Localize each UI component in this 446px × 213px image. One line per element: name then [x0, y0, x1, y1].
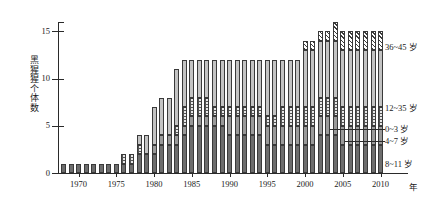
bar-segment — [348, 31, 353, 50]
bar-segment — [174, 135, 179, 144]
bar-segment — [333, 41, 338, 98]
bar-2010 — [378, 31, 383, 173]
bar-1991 — [235, 60, 240, 173]
bar-segment — [371, 107, 376, 126]
bar-segment — [325, 135, 330, 173]
bar-segment — [310, 50, 315, 107]
bar-segment — [204, 60, 209, 98]
bar-2007 — [355, 31, 360, 173]
bar-segment — [318, 98, 323, 117]
x-tick-mark — [343, 173, 344, 177]
bar-segment — [340, 50, 345, 107]
bar-2002 — [318, 31, 323, 173]
bar-segment — [167, 98, 172, 136]
bar-segment — [340, 107, 345, 126]
bar-1985 — [189, 60, 194, 173]
bar-segment — [129, 164, 134, 173]
bar-segment — [295, 126, 300, 145]
bar-segment — [121, 164, 126, 173]
bar-segment — [288, 126, 293, 145]
y-tick-label: 15 — [42, 27, 51, 36]
bar-2000 — [303, 41, 308, 173]
bar-segment — [69, 164, 74, 173]
bar-segment — [303, 41, 308, 50]
leader-line-4-7 — [345, 141, 385, 142]
bar-segment — [227, 107, 232, 116]
bar-segment — [288, 107, 293, 126]
bar-1977 — [129, 154, 134, 173]
bar-segment — [288, 145, 293, 173]
bar-segment — [333, 22, 338, 41]
bar-1979 — [144, 135, 149, 173]
y-tick-label: 10 — [42, 74, 51, 83]
x-tick-label: 1990 — [216, 180, 244, 189]
bar-segment — [212, 107, 217, 116]
bar-segment — [174, 126, 179, 135]
bar-segment — [204, 116, 209, 125]
bar-segment — [340, 31, 345, 50]
bar-segment — [220, 126, 225, 173]
bar-segment — [167, 135, 172, 144]
x-tick-label: 1980 — [140, 180, 168, 189]
bar-segment — [303, 107, 308, 126]
bar-segment — [371, 145, 376, 173]
bar-segment — [182, 60, 187, 107]
bar-segment — [272, 126, 277, 145]
bar-segment — [99, 164, 104, 173]
bar-segment — [378, 31, 383, 50]
bar-segment — [257, 116, 262, 135]
bar-segment — [363, 107, 368, 126]
bar-segment — [310, 41, 315, 50]
legend-label-4-7: 4~7 岁 — [385, 137, 409, 147]
bar-segment — [333, 135, 338, 173]
bar-segment — [137, 145, 142, 154]
bar-segment — [235, 60, 240, 107]
bar-1999 — [295, 60, 300, 173]
bar-1988 — [212, 60, 217, 173]
bar-segment — [265, 126, 270, 145]
bar-segment — [378, 145, 383, 173]
bar-segment — [235, 107, 240, 116]
bar-segment — [318, 31, 323, 40]
bar-segment — [378, 50, 383, 107]
bar-segment — [212, 126, 217, 173]
x-tick-label: 1970 — [65, 180, 93, 189]
bar-segment — [325, 98, 330, 117]
bar-2003 — [325, 31, 330, 173]
bar-segment — [272, 145, 277, 173]
bar-2001 — [310, 41, 315, 173]
bar-1998 — [288, 60, 293, 173]
bar-segment — [318, 135, 323, 173]
bar-1994 — [257, 60, 262, 173]
bar-segment — [363, 145, 368, 173]
bar-segment — [355, 107, 360, 126]
bar-segment — [189, 126, 194, 173]
bar-segment — [280, 126, 285, 145]
x-axis-unit: 年 — [409, 180, 418, 192]
bar-segment — [189, 116, 194, 125]
bar-segment — [235, 116, 240, 135]
x-tick-mark — [116, 173, 117, 177]
bar-segment — [204, 98, 209, 117]
bar-segment — [318, 41, 323, 98]
bar-1996 — [272, 60, 277, 173]
bar-segment — [159, 98, 164, 136]
bar-segment — [220, 116, 225, 125]
x-tick-label: 2000 — [291, 180, 319, 189]
bar-1983 — [174, 69, 179, 173]
bar-segment — [303, 50, 308, 107]
bar-segment — [197, 60, 202, 98]
bar-segment — [310, 145, 315, 173]
bar-segment — [257, 107, 262, 116]
bar-1969 — [69, 164, 74, 173]
bar-segment — [348, 50, 353, 107]
y-tick-mark — [52, 31, 58, 32]
bar-segment — [235, 135, 240, 173]
bar-segment — [378, 107, 383, 126]
bar-1974 — [106, 164, 111, 173]
bar-segment — [197, 116, 202, 125]
bar-segment — [220, 60, 225, 107]
bar-segment — [242, 60, 247, 107]
bar-1976 — [121, 154, 126, 173]
bar-1989 — [220, 60, 225, 173]
